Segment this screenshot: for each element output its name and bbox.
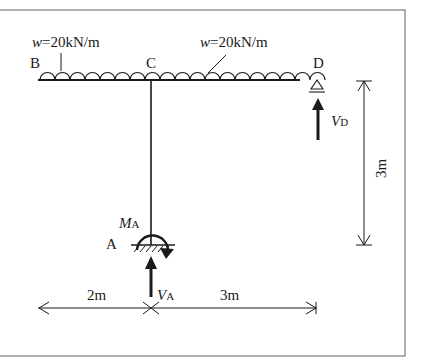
vertical-dimension (356, 81, 372, 245)
point-label-d: D (313, 55, 324, 71)
point-label-b: B (30, 55, 40, 71)
reaction-arrow-vd-icon (312, 98, 324, 140)
distributed-load-arcs (40, 73, 325, 81)
load-leader-right (208, 55, 226, 73)
load-label-left: w=20kN/m (32, 34, 100, 50)
dimension-label-right-span: 3m (220, 287, 240, 303)
structural-frame-diagram: w=20kN/m w=20kN/m B C D A VD MA (0, 0, 421, 362)
load-label-right: w=20kN/m (200, 34, 268, 50)
point-label-a: A (106, 236, 117, 252)
reaction-label-ma: MA (118, 215, 140, 231)
horizontal-dimension (38, 302, 317, 314)
dimension-label-left-span: 2m (87, 287, 107, 303)
reaction-label-vd: VD (331, 113, 348, 129)
roller-support-icon (309, 80, 325, 92)
dimension-label-height: 3m (373, 159, 389, 179)
reaction-label-va: VA (157, 287, 174, 303)
point-label-c: C (146, 55, 156, 71)
reaction-arrow-va-icon (145, 256, 157, 297)
